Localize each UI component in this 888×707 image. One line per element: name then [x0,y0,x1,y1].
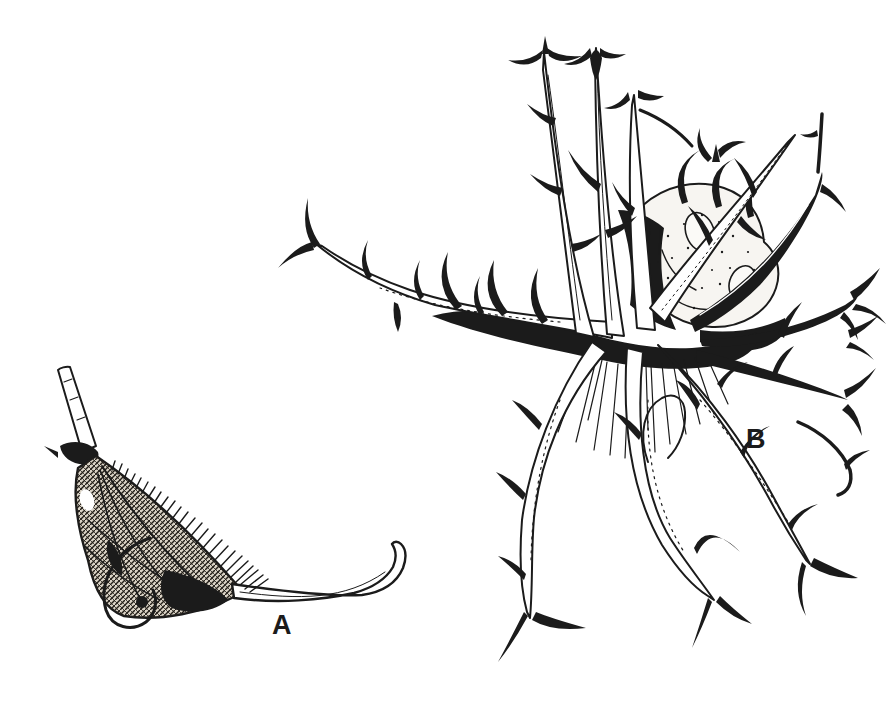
pod-stalk [44,367,99,465]
figure-label-a: A [272,612,292,639]
pod-hooked-beak [232,542,405,601]
bur-legs [496,342,858,662]
botanical-illustration-canvas [0,0,888,707]
pod-body [76,456,238,618]
seed-pod-illustration-a [44,367,405,628]
spiny-bur-illustration-b [278,36,886,662]
botanical-figure-plate: A B [0,0,888,707]
figure-label-b: B [746,426,766,453]
